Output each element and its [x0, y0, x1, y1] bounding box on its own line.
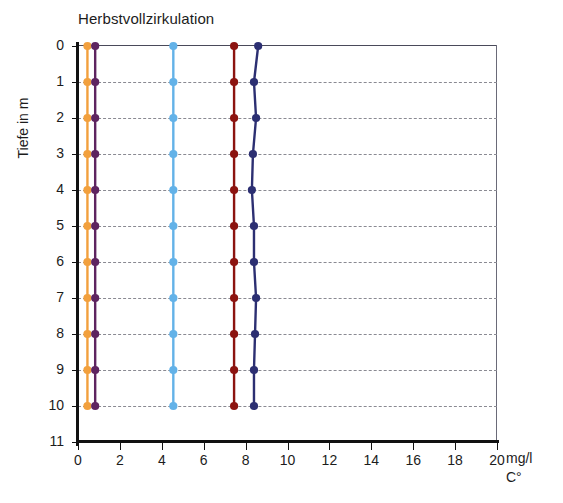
data-point [230, 42, 238, 50]
unit-label-celsius: C° [506, 468, 532, 487]
data-point [230, 78, 238, 86]
data-point [91, 294, 99, 302]
series-dark-red-series [230, 42, 238, 410]
data-point [249, 150, 257, 158]
data-point [230, 186, 238, 194]
data-point [230, 330, 238, 338]
data-point [83, 150, 91, 158]
data-point [248, 186, 256, 194]
data-point [83, 222, 91, 230]
data-point [230, 258, 238, 266]
data-series-layer [0, 0, 563, 503]
data-point [169, 294, 177, 302]
data-point [83, 366, 91, 374]
data-point [83, 186, 91, 194]
data-point [250, 222, 258, 230]
data-point [91, 42, 99, 50]
data-point [169, 150, 177, 158]
data-point [91, 366, 99, 374]
data-point [83, 258, 91, 266]
data-point [169, 114, 177, 122]
data-point [230, 114, 238, 122]
data-point [83, 294, 91, 302]
data-point [230, 150, 238, 158]
data-point [169, 78, 177, 86]
unit-label-mgl: mg/l [506, 449, 532, 468]
chart-root: Herbstvollzirkulation Tiefe in m 0123456… [0, 0, 563, 503]
data-point [251, 330, 259, 338]
data-point [254, 42, 262, 50]
series-purple-series [91, 42, 99, 410]
data-point [250, 366, 258, 374]
data-point [169, 42, 177, 50]
series-orange-series [83, 42, 91, 410]
data-point [91, 330, 99, 338]
data-point [91, 402, 99, 410]
data-point [83, 78, 91, 86]
axis-unit-labels: mg/l C° [506, 449, 532, 487]
data-point [230, 366, 238, 374]
data-point [250, 258, 258, 266]
data-point [91, 258, 99, 266]
data-point [83, 402, 91, 410]
data-point [230, 294, 238, 302]
data-point [169, 186, 177, 194]
series-dark-blue-series [248, 42, 262, 410]
data-point [169, 366, 177, 374]
data-point [252, 294, 260, 302]
data-point [83, 330, 91, 338]
series-light-blue-series [169, 42, 177, 410]
data-point [91, 114, 99, 122]
data-point [169, 330, 177, 338]
data-point [252, 114, 260, 122]
data-point [91, 150, 99, 158]
data-point [230, 222, 238, 230]
data-point [91, 186, 99, 194]
data-point [91, 222, 99, 230]
data-point [83, 114, 91, 122]
data-point [230, 402, 238, 410]
data-point [83, 42, 91, 50]
data-point [169, 402, 177, 410]
data-point [169, 258, 177, 266]
data-point [91, 78, 99, 86]
data-point [169, 222, 177, 230]
data-point [250, 402, 258, 410]
data-point [250, 78, 258, 86]
